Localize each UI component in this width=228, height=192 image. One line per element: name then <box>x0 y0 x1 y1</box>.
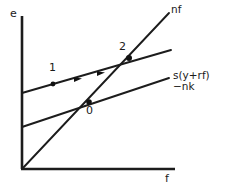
point-label-0: 0 <box>86 105 93 116</box>
curve-label-saving-line2: −nk <box>173 81 210 92</box>
point-label-1: 1 <box>49 62 56 73</box>
plot-canvas <box>0 0 228 192</box>
curve-label-nf: nf <box>171 4 181 15</box>
x-axis-label: f <box>165 173 169 184</box>
curve-label-saving: s(y+rf)−nk <box>173 70 210 92</box>
upper-line <box>22 50 171 93</box>
flow-arrow-icon-1 <box>74 77 82 82</box>
point-label-2: 2 <box>119 41 126 52</box>
flow-arrow-icon-2 <box>97 71 105 76</box>
nf-line <box>22 13 169 169</box>
marker-dot-2 <box>126 55 132 61</box>
marker-dot-1 <box>51 82 56 87</box>
saving-line <box>22 78 169 127</box>
phase-diagram-figure: e f nf s(y+rf)−nk 1 2 0 <box>0 0 228 192</box>
y-axis-label: e <box>10 8 17 19</box>
